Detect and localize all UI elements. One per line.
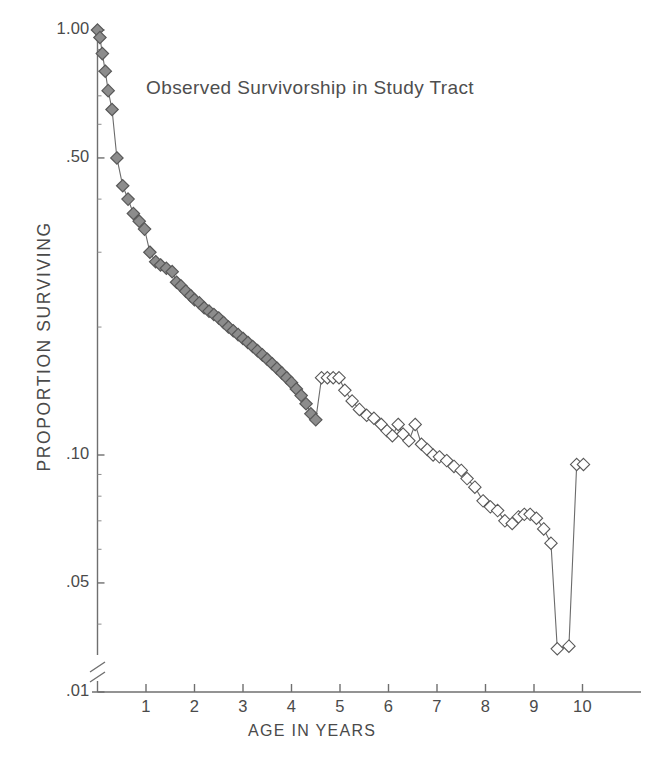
y-axis-title: PROPORTION SURVIVING (34, 222, 55, 472)
x-tick-label: 3 (223, 697, 263, 716)
x-tick-label: 1 (126, 697, 166, 716)
data-point-marker-filled (106, 103, 118, 115)
x-axis-title: AGE IN YEARS (248, 722, 376, 740)
x-tick-label: 5 (320, 697, 360, 716)
data-polyline-group (98, 30, 584, 649)
y-tick-label: .05 (2, 572, 90, 591)
data-point-marker-filled (111, 152, 123, 164)
x-tick-label: 9 (514, 697, 554, 716)
data-point-marker-filled (99, 65, 111, 77)
y-tick-marks (98, 30, 105, 692)
x-tick-label: 4 (272, 697, 312, 716)
data-point-marker-filled (102, 84, 114, 96)
data-point-marker-open (538, 523, 550, 535)
survivorship-figure: Observed Survivorship in Study Tract PRO… (0, 0, 651, 763)
x-tick-label: 2 (175, 697, 215, 716)
data-point-marker-open (545, 537, 557, 549)
data-point-marker-open (563, 640, 575, 652)
axis-lines (90, 30, 641, 692)
data-point-marker-open (551, 643, 563, 655)
data-point-marker-open (339, 384, 351, 396)
data-point-marker-filled (122, 193, 134, 205)
y-tick-label: .50 (2, 147, 90, 166)
y-tick-label: .01 (2, 681, 90, 700)
y-tick-label: 1.00 (2, 19, 90, 38)
x-tick-marks (146, 684, 583, 692)
x-tick-label: 10 (563, 697, 603, 716)
data-marker-group (91, 24, 589, 655)
y-tick-label: .10 (2, 444, 90, 463)
x-tick-label: 8 (466, 697, 506, 716)
data-point-marker-filled (117, 180, 129, 192)
x-tick-label: 7 (417, 697, 457, 716)
x-tick-label: 6 (369, 697, 409, 716)
y-axis-break-icon (90, 662, 105, 682)
chart-title: Observed Survivorship in Study Tract (146, 77, 474, 99)
survivorship-line (98, 30, 584, 649)
plot-area (0, 0, 651, 763)
data-point-marker-open (409, 418, 421, 430)
